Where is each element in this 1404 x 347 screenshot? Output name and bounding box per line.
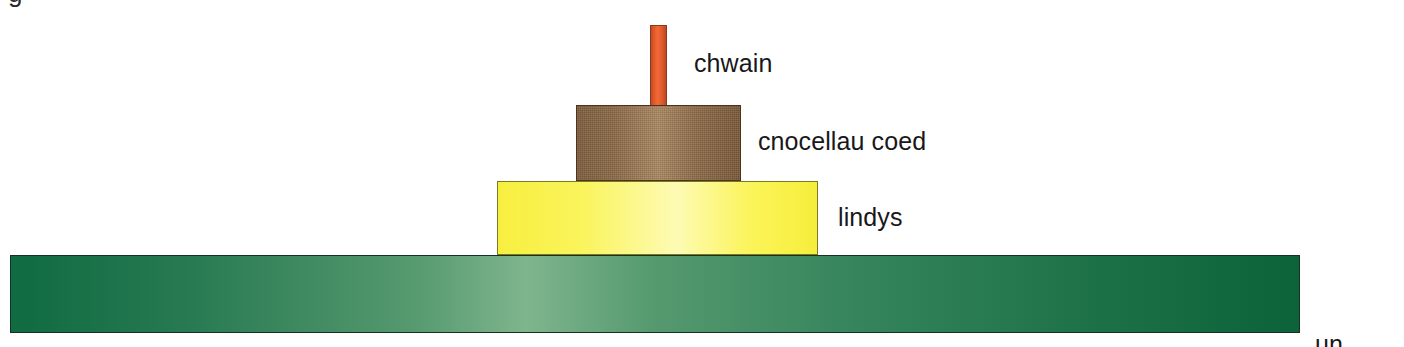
pyramid-diagram: g chwain cnocellau coed lindys un goeden (0, 0, 1404, 347)
level-bar-un-goeden (10, 255, 1300, 333)
level-label-cnocellau-coed: cnocellau coed (758, 126, 926, 156)
cropped-glyph-fragment: g (8, 0, 22, 9)
level-bar-chwain (650, 25, 667, 107)
level-label-lindys: lindys (838, 202, 903, 232)
level-bar-lindys (497, 181, 818, 255)
level-bar-cnocellau-coed (576, 105, 741, 181)
level-label-un-goeden: un goeden (1315, 267, 1399, 347)
level-label-chwain: chwain (694, 48, 772, 78)
level-label-un-goeden-line1: un (1315, 329, 1399, 347)
